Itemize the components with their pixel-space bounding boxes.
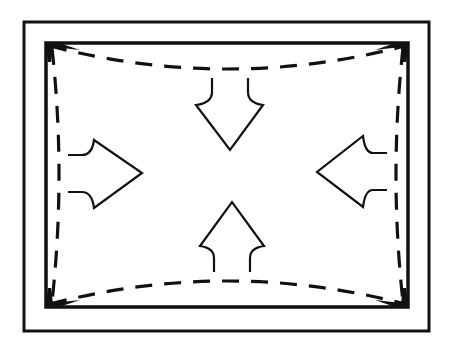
arrow-left-icon <box>317 136 387 207</box>
corner-top-left <box>45 42 80 62</box>
distorted-top-edge <box>50 46 405 69</box>
distorted-bottom-edge <box>50 281 405 304</box>
arrow-right-icon <box>68 140 142 208</box>
arrow-down-icon <box>196 78 263 150</box>
arrow-up-icon <box>200 202 264 272</box>
corner-bottom-left <box>45 288 80 308</box>
pincushion-distortion-diagram <box>0 0 452 347</box>
distorted-left-edge <box>52 48 59 302</box>
distorted-right-edge <box>396 48 403 302</box>
